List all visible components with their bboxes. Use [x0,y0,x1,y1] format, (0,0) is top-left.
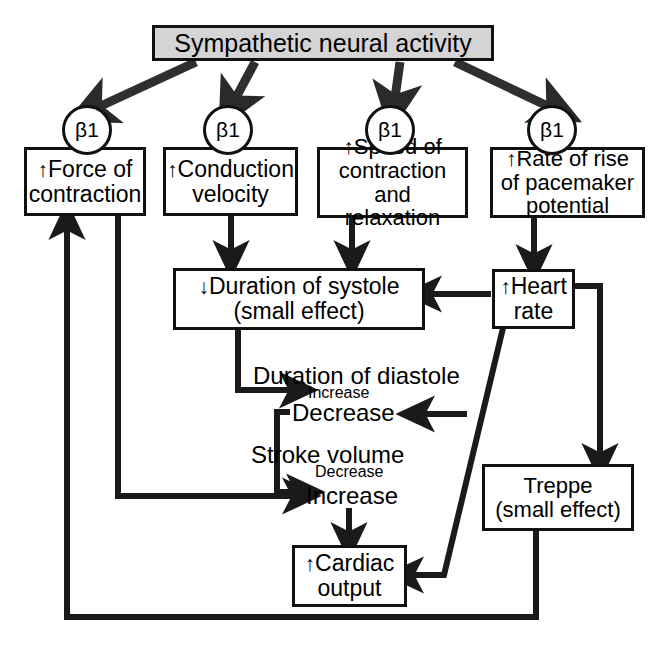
header-fanout-arrows [92,62,556,110]
node-label: Sympathetic neural activity [174,30,471,57]
label-diastole-decrease: Decrease [292,399,395,427]
node-sympathetic-neural-activity[interactable]: Sympathetic neural activity [152,25,494,61]
node-label-line2: contraction [29,182,142,207]
beta1-label: β1 [540,118,564,142]
up-arrow-icon: ↑ [38,159,49,182]
node-label-line2: velocity [167,182,294,207]
node-conduction-velocity[interactable]: ↑Conduction velocity [163,147,298,216]
node-label-line1: Heart [511,273,567,299]
node-label-line2: (small effect) [495,498,621,522]
node-label-line3: relaxation [320,206,465,230]
node-label-line2: contraction and [320,159,465,207]
node-label-line2: (small effect) [199,299,400,324]
label-stroke-increase: Increase [306,482,398,510]
node-label-line1: Duration of systole [209,273,399,299]
node-label-line1: Cardiac [315,550,394,576]
node-label-line2: rate [500,299,567,324]
beta1-receptor-conduction[interactable]: β1 [203,105,253,155]
node-label-line2: output [305,576,395,601]
node-label-line3: potential [501,194,634,218]
beta1-label: β1 [75,118,99,142]
node-heart-rate[interactable]: ↑Heart rate [492,269,575,329]
diagram-canvas: Sympathetic neural activity β1 β1 β1 β1 … [0,0,659,656]
up-arrow-icon: ↑ [305,553,316,576]
node-treppe[interactable]: Treppe (small effect) [482,464,634,531]
up-arrow-icon: ↑ [506,148,517,171]
node-speed-of-contraction-and-relaxation[interactable]: ↑Speed of contraction and relaxation [317,147,468,218]
up-arrow-icon: ↑ [500,276,511,299]
node-label-line2: of pacemaker [501,171,634,195]
wire-heartrate-to-treppe [574,286,600,461]
beta1-receptor-pacemaker[interactable]: β1 [527,105,577,155]
node-force-of-contraction[interactable]: ↑Force of contraction [24,147,146,216]
label-stroke-decrease: Decrease [315,463,383,481]
beta1-receptor-speed[interactable]: β1 [365,105,415,155]
node-label-line1: Rate of rise [516,146,629,171]
node-label-line1: Conduction [178,156,294,182]
up-arrow-icon: ↑ [167,159,178,182]
up-arrow-icon: ↑ [343,136,354,159]
beta1-label: β1 [216,118,240,142]
down-arrow-icon: ↓ [199,276,210,299]
beta1-label: β1 [378,118,402,142]
node-label-line1: Force of [48,156,132,182]
node-duration-of-systole[interactable]: ↓Duration of systole (small effect) [173,268,425,330]
node-label-line1: Treppe [495,474,621,498]
beta1-receptor-force[interactable]: β1 [62,105,112,155]
node-rate-of-rise-of-pacemaker-potential[interactable]: ↑Rate of rise of pacemaker potential [490,147,645,218]
node-cardiac-output[interactable]: ↑Cardiac output [292,545,407,607]
